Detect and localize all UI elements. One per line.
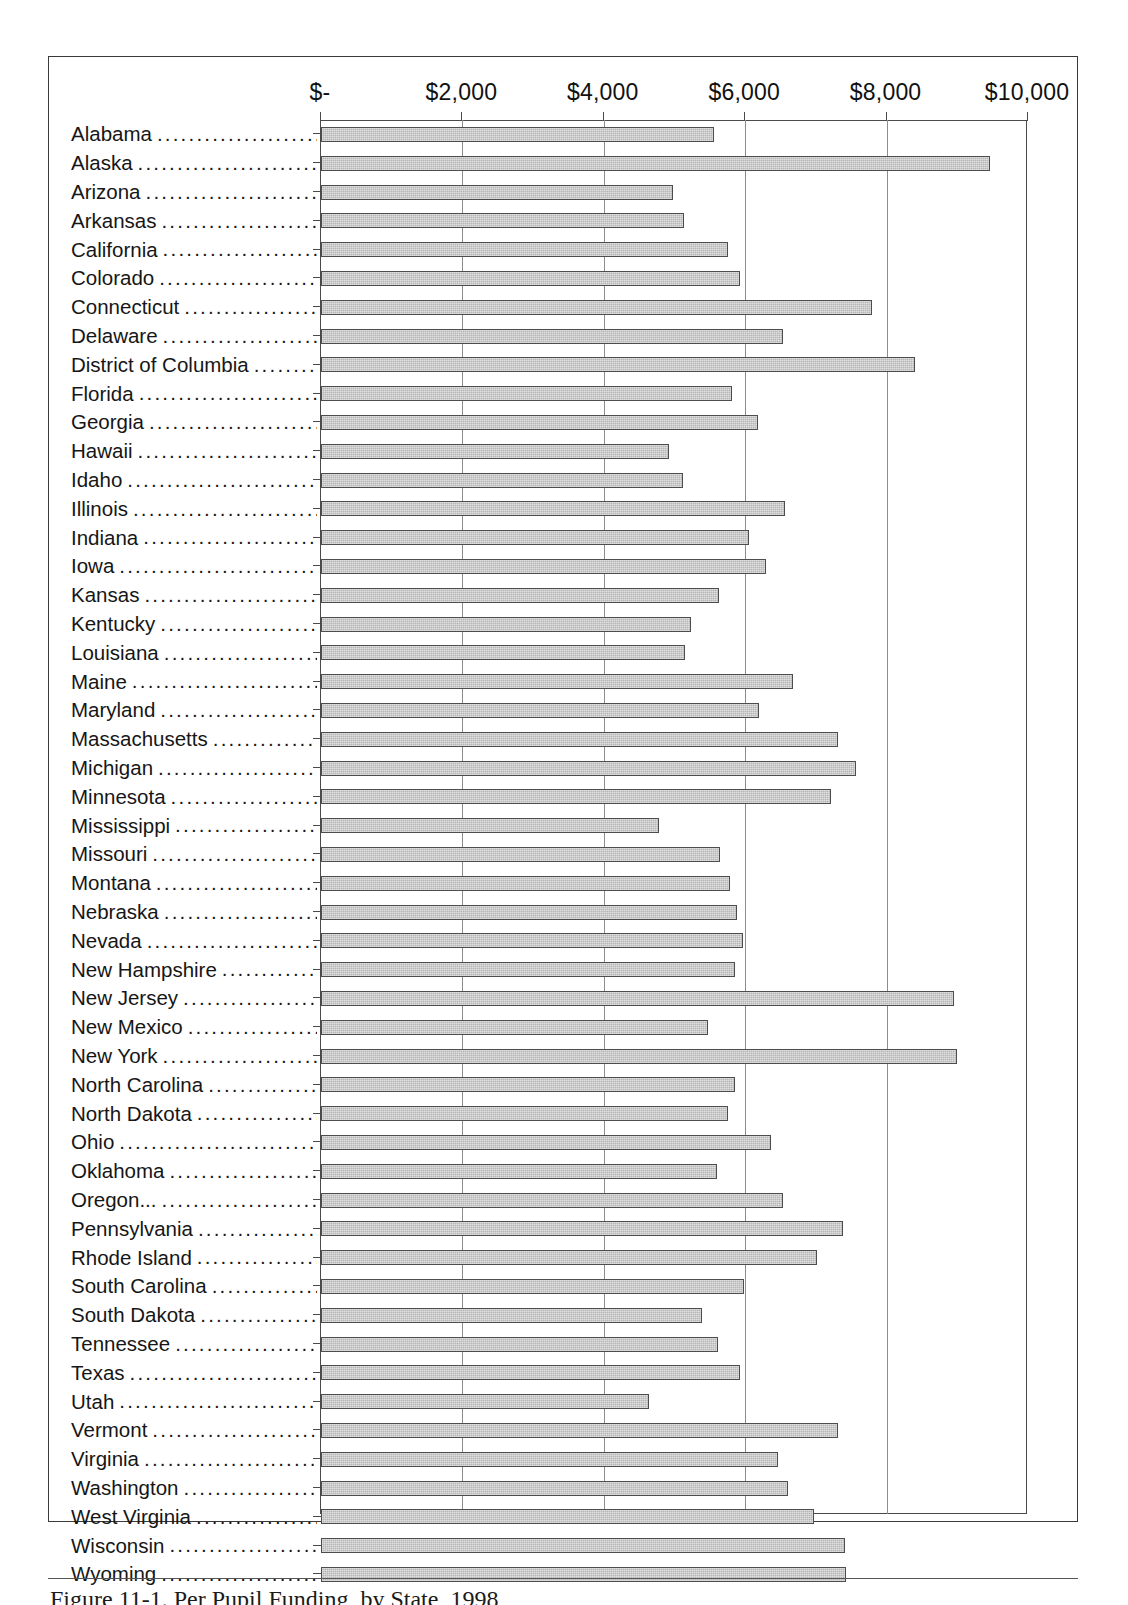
bar (321, 962, 735, 977)
bar (321, 415, 758, 430)
dot-leader: ........................................… (198, 1219, 317, 1240)
category-label: Tennessee...............................… (71, 1330, 317, 1359)
category-label-text: New Mexico (71, 1015, 188, 1039)
category-label-text: Maine (71, 670, 132, 694)
category-label: Indiana.................................… (71, 523, 317, 552)
dot-leader: ........................................… (119, 556, 317, 577)
chart-row: California..............................… (49, 235, 1077, 264)
category-label: Massachusetts...........................… (71, 725, 317, 754)
category-label: Colorado................................… (71, 264, 317, 293)
category-label: Oregon..................................… (71, 1186, 317, 1215)
chart-row: New York................................… (49, 1042, 1077, 1071)
category-label-text: New York (71, 1044, 163, 1068)
category-label-text: Kansas (71, 583, 144, 607)
x-axis-tick-label: $- (310, 79, 331, 106)
category-label: Michigan................................… (71, 754, 317, 783)
bar (321, 1452, 778, 1467)
dot-leader: ........................................… (164, 902, 317, 923)
bar (321, 674, 793, 689)
category-label: Georgia.................................… (71, 408, 317, 437)
category-label-text: Mississippi (71, 814, 175, 838)
category-label-text: Alaska (71, 151, 138, 175)
bar (321, 617, 691, 632)
bar (321, 645, 685, 660)
chart-row: District of Columbia....................… (49, 350, 1077, 379)
x-axis-tick-label: $4,000 (567, 79, 639, 106)
chart-row: Alabama.................................… (49, 120, 1077, 149)
dot-leader: ........................................… (146, 182, 317, 203)
category-label: Vermont.................................… (71, 1416, 317, 1445)
category-label-text: North Dakota (71, 1102, 197, 1126)
category-label-text: New Hampshire (71, 958, 222, 982)
bar (321, 1049, 957, 1064)
category-label-text: Iowa (71, 554, 119, 578)
dot-leader: ........................................… (163, 239, 317, 260)
chart-row: Montana.................................… (49, 869, 1077, 898)
chart-row: Mississippi.............................… (49, 811, 1077, 840)
y-axis-tick-mark (313, 1458, 321, 1459)
chart-row: Maine...................................… (49, 667, 1077, 696)
dot-leader: ........................................… (188, 1017, 317, 1038)
bar (321, 1308, 702, 1323)
category-label-text: South Dakota (71, 1303, 200, 1327)
category-label: Delaware................................… (71, 322, 317, 351)
chart-row: Hawaii..................................… (49, 437, 1077, 466)
category-label: Washington..............................… (71, 1474, 317, 1503)
chart-row: South Dakota............................… (49, 1301, 1077, 1330)
dot-leader: ........................................… (200, 1305, 317, 1326)
y-axis-tick-mark (313, 162, 321, 163)
dot-leader: ........................................… (184, 297, 317, 318)
category-label: Rhode Island............................… (71, 1243, 317, 1272)
chart-row: Oklahoma................................… (49, 1157, 1077, 1186)
bar (321, 1509, 814, 1524)
category-label: Texas...................................… (71, 1358, 317, 1387)
dot-leader: ........................................… (157, 124, 317, 145)
bar (321, 1221, 843, 1236)
category-label: South Dakota............................… (71, 1301, 317, 1330)
category-label-text: Vermont (71, 1418, 152, 1442)
y-axis-tick-mark (313, 738, 321, 739)
dot-leader: ........................................… (159, 268, 317, 289)
bar (321, 1567, 846, 1582)
category-label: Illinois................................… (71, 494, 317, 523)
chart-row: Rhode Island............................… (49, 1243, 1077, 1272)
bar (321, 559, 766, 574)
dot-leader: ........................................… (184, 1478, 318, 1499)
category-label-text: Wisconsin (71, 1534, 169, 1558)
y-axis-tick-mark (313, 1401, 321, 1402)
y-axis-tick-mark (313, 1257, 321, 1258)
y-axis-tick-mark (313, 508, 321, 509)
chart-row: Massachusetts...........................… (49, 725, 1077, 754)
category-label: Nevada..................................… (71, 926, 317, 955)
dot-leader: ........................................… (160, 614, 317, 635)
chart-row: Iowa....................................… (49, 552, 1077, 581)
category-label-text: Minnesota (71, 785, 171, 809)
category-label-text: Hawaii (71, 439, 138, 463)
category-label-text: Tennessee (71, 1332, 175, 1356)
y-axis-tick-mark (313, 220, 321, 221)
category-label-text: Colorado (71, 266, 159, 290)
bar (321, 732, 838, 747)
bar (321, 1394, 649, 1409)
bar (321, 357, 915, 372)
bar (321, 1135, 771, 1150)
category-label: Alaska..................................… (71, 149, 317, 178)
chart-row: Illinois................................… (49, 494, 1077, 523)
category-label: Idaho...................................… (71, 466, 317, 495)
category-label: West Virginia...........................… (71, 1502, 317, 1531)
category-label-text: Florida (71, 382, 139, 406)
chart-row: Michigan................................… (49, 754, 1077, 783)
chart-row: Tennessee...............................… (49, 1330, 1077, 1359)
chart-row: New Jersey..............................… (49, 984, 1077, 1013)
dot-leader: ........................................… (152, 844, 317, 865)
bar (321, 329, 783, 344)
category-label: Pennsylvania............................… (71, 1214, 317, 1243)
category-label-text: Connecticut (71, 295, 184, 319)
category-label-text: Maryland (71, 698, 160, 722)
chart-row: Georgia.................................… (49, 408, 1077, 437)
bar (321, 501, 785, 516)
dot-leader: ........................................… (161, 1190, 317, 1211)
y-axis-tick-mark (313, 1573, 321, 1574)
dot-leader: ........................................… (213, 729, 317, 750)
dot-leader: ........................................… (164, 643, 317, 664)
